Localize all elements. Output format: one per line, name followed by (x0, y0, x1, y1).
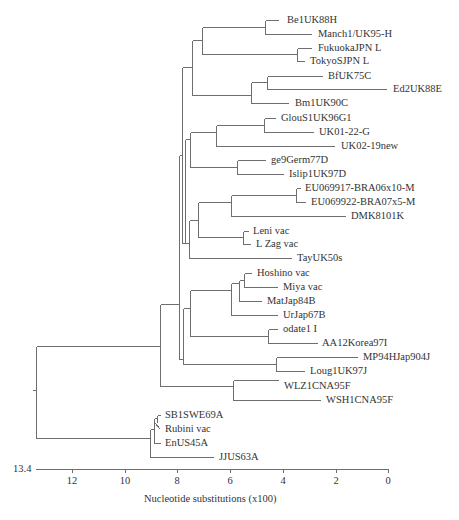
leaf-label: Manch1/UK95-H (318, 28, 392, 40)
leaf-label: WSH1CNA95F (326, 394, 393, 406)
leaf-label: Ed2UK88E (393, 83, 442, 95)
leaf-label: WLZ1CNA95F (284, 380, 351, 392)
leaf-label: UK01-22-G (319, 126, 370, 138)
axis-start-label: 13.4 (13, 463, 31, 474)
leaf-label: Rubini vac (165, 423, 211, 435)
leaf-label: FukuokaJPN L (318, 42, 381, 54)
leaf-label: AA12Korea97I (322, 337, 387, 349)
tick-label: 2 (333, 475, 338, 486)
leaf-label: UrJap67B (283, 309, 326, 321)
leaf-label: odate1 I (283, 323, 317, 335)
leaf-label: Be1UK88H (287, 14, 337, 26)
leaf-label: Bm1UK90C (295, 97, 348, 109)
leaf-label: EnUS45A (165, 437, 208, 449)
leaf-label: GlouS1UK96G1 (281, 112, 352, 124)
tick-label: 0 (385, 475, 390, 486)
tick-label: 6 (227, 475, 232, 486)
tick-label: 12 (67, 475, 78, 486)
tick-label: 8 (174, 475, 179, 486)
leaf-label: TayUK50s (297, 252, 342, 264)
phylogenetic-tree (0, 0, 459, 520)
leaf-label: Leni vac (253, 225, 289, 237)
leaf-label: L Zag vac (256, 238, 298, 250)
axis-title: Nucleotide substitutions (x100) (144, 493, 276, 504)
leaf-label: EU069917-BRA06x10-M (305, 182, 415, 194)
branch-line (155, 423, 161, 430)
leaf-label: UK02-19new (341, 140, 398, 152)
leaf-label: ge9Germ77D (271, 154, 328, 166)
leaf-label: BfUK75C (328, 70, 371, 82)
leaf-label: TokyoSJPN L (310, 55, 369, 67)
leaf-label: SB1SWE69A (165, 409, 223, 421)
leaf-label: Miya vac (283, 281, 322, 293)
leaf-label: Hoshino vac (257, 267, 310, 279)
leaf-label: JJUS63A (219, 451, 259, 463)
tick-label: 10 (120, 475, 131, 486)
leaf-label: MP94HJap904J (363, 351, 430, 363)
tick-label: 4 (280, 475, 285, 486)
leaf-label: DMK8101K (351, 210, 404, 222)
leaf-label: Loug1UK97J (310, 365, 367, 377)
leaf-label: EU069922-BRA07x5-M (311, 196, 415, 208)
leaf-label: Islip1UK97D (289, 168, 346, 180)
leaf-label: MatJap84B (267, 295, 315, 307)
